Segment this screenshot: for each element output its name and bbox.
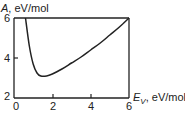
xtick-4: 4 <box>88 101 94 112</box>
ytick-4: 4 <box>4 53 10 64</box>
ytick-6: 6 <box>4 13 10 24</box>
ticks <box>14 58 91 98</box>
xtick-0: 0 <box>13 101 19 112</box>
xtick-6: 6 <box>126 101 132 112</box>
xtick-2: 2 <box>50 101 56 112</box>
x-axis-unit: , eV/mol <box>146 91 185 103</box>
y-axis-unit: , eV/mol <box>8 2 48 14</box>
x-axis-label: EV, eV/mol <box>133 92 185 107</box>
data-curve <box>26 18 130 76</box>
ytick-2: 2 <box>4 91 10 102</box>
